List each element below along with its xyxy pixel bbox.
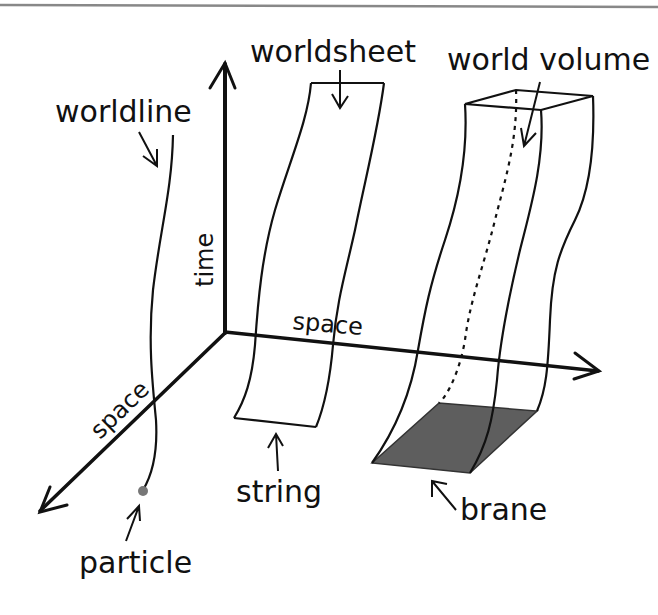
worldsheet-group bbox=[234, 70, 384, 471]
worldsheet-right-edge bbox=[316, 83, 384, 427]
space-axis-diagonal bbox=[40, 333, 225, 511]
world-volume-label: world volume bbox=[447, 42, 650, 77]
string-theory-diagram: worldline worldsheet world volume time s… bbox=[0, 0, 658, 615]
worldsheet-pointer-arrow-icon bbox=[332, 70, 348, 108]
string-pointer-arrow-icon bbox=[268, 434, 283, 471]
string-bottom-edge bbox=[234, 418, 316, 427]
string-label: string bbox=[236, 474, 322, 509]
space-axis-horizontal-label: space bbox=[291, 307, 364, 341]
worldsheet-label: worldsheet bbox=[250, 34, 416, 69]
space-axis-horizontal bbox=[225, 332, 598, 371]
brane-label: brane bbox=[460, 492, 547, 527]
particle-dot bbox=[138, 486, 148, 496]
time-axis-arrowhead-icon bbox=[210, 63, 235, 88]
axes bbox=[40, 63, 599, 512]
worldsheet-left-edge bbox=[234, 83, 311, 418]
particle-pointer-arrow-icon bbox=[126, 506, 140, 541]
world-volume-top-face bbox=[465, 90, 593, 110]
worldline-pointer-arrow-icon bbox=[139, 132, 157, 166]
worldline-curve bbox=[143, 135, 173, 490]
world-volume-group bbox=[372, 82, 593, 510]
top-rule bbox=[0, 5, 658, 7]
space-axis-horizontal-arrowhead-icon bbox=[574, 353, 599, 379]
time-axis-label: time bbox=[191, 233, 219, 287]
brane-pointer-arrow-icon bbox=[432, 481, 456, 510]
worldline-group bbox=[126, 132, 173, 541]
brane-surface bbox=[372, 403, 537, 473]
worldline-label: worldline bbox=[55, 94, 192, 129]
particle-label: particle bbox=[79, 545, 192, 580]
